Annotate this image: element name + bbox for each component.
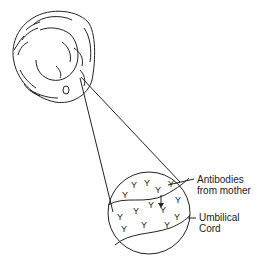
svg-text:Y: Y: [148, 200, 154, 210]
diagram-canvas: Y Y Y Y Y Y Y Y Y Y Y Y Y Y Antibodies f…: [0, 0, 260, 260]
svg-text:Y: Y: [133, 206, 139, 216]
antibody-glyphs: Y Y Y Y Y Y Y Y Y Y Y Y Y Y: [117, 178, 181, 234]
antibodies-label-line1: Antibodies: [197, 174, 251, 185]
svg-text:Y: Y: [168, 179, 174, 189]
svg-text:Y: Y: [131, 180, 137, 190]
svg-text:Y: Y: [144, 178, 150, 188]
zoom-line-left: [80, 78, 113, 212]
svg-text:Y: Y: [174, 212, 180, 222]
umbilical-cord-label: Umbilical Cord: [199, 212, 240, 234]
svg-text:Y: Y: [122, 190, 128, 200]
svg-text:Y: Y: [117, 212, 123, 222]
antibodies-label-line2: from mother: [197, 185, 251, 196]
svg-text:Y: Y: [175, 195, 181, 205]
svg-text:Y: Y: [164, 220, 170, 230]
zoom-line-right: [81, 77, 180, 182]
svg-text:Y: Y: [141, 220, 147, 230]
svg-text:Y: Y: [155, 185, 161, 195]
cord-label-line1: Umbilical: [199, 212, 240, 223]
svg-text:Y: Y: [121, 224, 127, 234]
svg-text:Y: Y: [160, 205, 166, 215]
antibodies-label: Antibodies from mother: [197, 174, 251, 196]
cord-label-line2: Cord: [199, 223, 240, 234]
